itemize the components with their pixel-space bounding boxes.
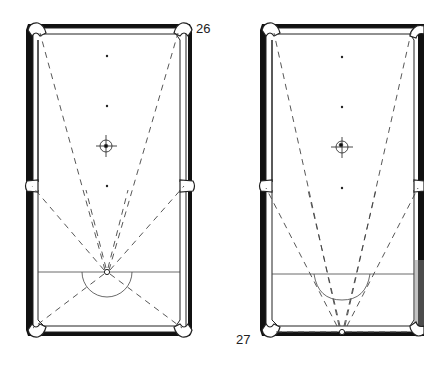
cue-ball xyxy=(339,329,344,334)
pocket-middle-left xyxy=(260,180,273,192)
center-spot-upper xyxy=(341,106,343,108)
figure-label-26: 26 xyxy=(196,21,210,36)
figure-label-27: 27 xyxy=(236,332,250,347)
foot-spot xyxy=(341,56,343,58)
cue-ball xyxy=(104,269,109,274)
center-spot xyxy=(106,185,108,187)
pocket-middle-right xyxy=(180,180,195,192)
table-26 xyxy=(26,23,195,337)
pocket-middle-right xyxy=(414,180,424,192)
table-27 xyxy=(260,23,424,337)
diagram-canvas xyxy=(0,0,424,373)
center-spot xyxy=(341,187,343,189)
rail-right-shade xyxy=(414,260,424,330)
center-spot-upper xyxy=(106,105,108,107)
foot-spot xyxy=(106,55,108,57)
